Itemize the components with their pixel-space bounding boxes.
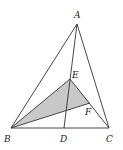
label-d: D — [59, 134, 67, 144]
label-a: A — [73, 10, 81, 20]
label-b: B — [3, 134, 11, 144]
shaded-triangle-bef — [11, 79, 90, 128]
segment-ac — [77, 24, 109, 128]
label-c: C — [106, 134, 113, 144]
geometry-diagram: A B C D E F — [0, 0, 123, 150]
label-e: E — [71, 70, 79, 80]
label-f: F — [84, 107, 92, 117]
